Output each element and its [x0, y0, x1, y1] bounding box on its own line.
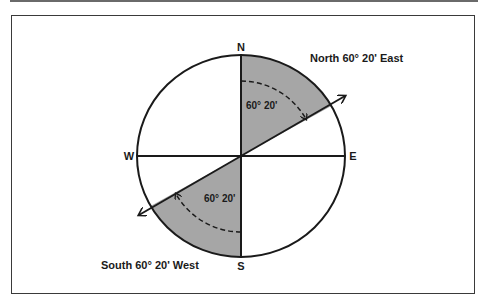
sw-bearing-label: South 60° 20' West	[101, 259, 199, 271]
compass-bearing-diagram: N S W E North 60° 20' East South 60° 20'…	[0, 0, 488, 307]
south-label: S	[237, 260, 244, 272]
ne-angle-label: 60° 20'	[246, 100, 277, 111]
ne-bearing-label: North 60° 20' East	[310, 52, 404, 64]
sw-angle-label: 60° 20'	[204, 193, 235, 204]
east-label: E	[349, 150, 356, 162]
sw-shaded-sector	[151, 156, 241, 257]
north-label: N	[237, 41, 245, 53]
west-label: W	[124, 150, 135, 162]
